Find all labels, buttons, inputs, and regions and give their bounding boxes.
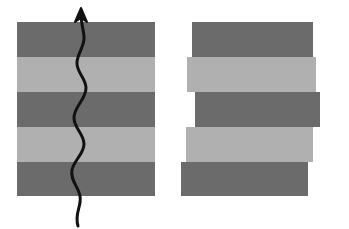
left-layer-stack	[17, 22, 155, 196]
left-panel-undeformed-block	[0, 0, 175, 229]
left-layer-3	[17, 92, 155, 127]
arrow-head	[75, 8, 87, 22]
right-layer-4	[186, 127, 313, 162]
right-layer-stack	[175, 0, 349, 229]
right-panel-faulted-block	[175, 0, 349, 229]
left-layer-2	[17, 57, 155, 92]
right-layer-5	[181, 162, 308, 196]
right-layer-1	[192, 22, 313, 57]
right-layer-3	[195, 92, 320, 127]
right-layer-2	[187, 57, 316, 92]
left-layer-4	[17, 127, 155, 162]
left-layer-5	[17, 162, 155, 196]
figure-root	[0, 0, 349, 229]
left-layer-1	[17, 22, 155, 57]
